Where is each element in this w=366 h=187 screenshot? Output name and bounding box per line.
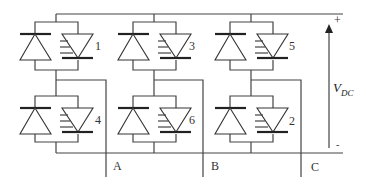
- diode-b-upper: [118, 34, 149, 60]
- output-label-a: A: [113, 160, 122, 172]
- vdc-symbol: V: [333, 80, 341, 95]
- thyristor-3: [158, 34, 191, 58]
- switch-label-4: 4: [95, 114, 101, 126]
- diode-b-lower: [118, 108, 149, 134]
- vdc-label: VDC: [333, 80, 353, 98]
- diode-a-upper: [20, 34, 51, 60]
- thyristor-5: [255, 34, 288, 58]
- switch-label-5: 5: [289, 40, 295, 52]
- switch-label-6: 6: [189, 114, 195, 126]
- vdc-subscript: DC: [341, 88, 354, 98]
- switch-label-2: 2: [289, 115, 295, 127]
- plus-sign: +: [334, 14, 341, 26]
- thyristor-6: [158, 108, 191, 132]
- diode-c-lower: [215, 108, 246, 134]
- switch-label-1: 1: [95, 40, 101, 52]
- output-label-b: B: [211, 160, 219, 172]
- thyristor-4: [60, 108, 93, 132]
- thyristor-2: [255, 108, 288, 132]
- minus-sign: -: [336, 140, 339, 150]
- vdc-arrow-icon: [325, 24, 333, 148]
- inverter-circuit: [0, 0, 366, 187]
- diode-a-lower: [20, 108, 51, 134]
- switch-label-3: 3: [189, 40, 195, 52]
- thyristor-1: [60, 34, 93, 58]
- diode-c-upper: [215, 34, 246, 60]
- output-label-c: C: [311, 161, 319, 173]
